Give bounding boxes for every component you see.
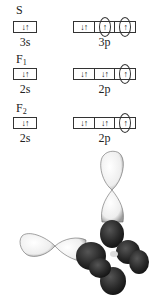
s-p-lobe-lower-left — [89, 258, 111, 278]
f1-outer-lobe — [101, 151, 124, 190]
f1-inner-lobe — [101, 190, 123, 222]
nucleus-highlight — [110, 251, 118, 257]
f2-outer-lobe — [20, 234, 55, 257]
s-p-lobe-right — [129, 250, 149, 274]
orbital-overlap-figure — [0, 0, 154, 298]
